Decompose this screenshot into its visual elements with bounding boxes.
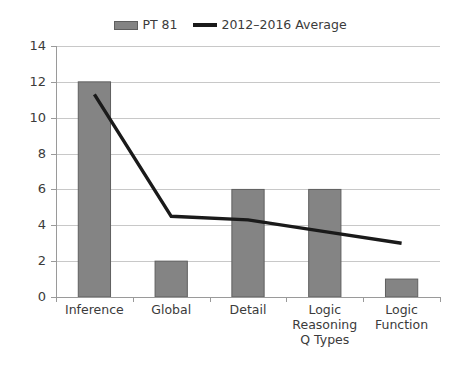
- y-tick-label: 10: [29, 110, 46, 125]
- y-tick-label: 2: [38, 253, 46, 268]
- bar: [232, 189, 264, 297]
- x-axis-label: Detail: [210, 302, 287, 368]
- y-tick-label: 14: [29, 38, 46, 53]
- line-series-average: [94, 94, 401, 243]
- bar: [385, 279, 417, 297]
- x-axis-label: Logic Function: [363, 302, 440, 368]
- y-tick-label: 12: [29, 74, 46, 89]
- x-axis-label: Global: [133, 302, 210, 368]
- chart-container: PT 81 2012–2016 Average 02468101214 Infe…: [0, 0, 461, 373]
- x-axis-category-labels: InferenceGlobalDetailLogic Reasoning Q T…: [56, 302, 440, 368]
- x-axis-label: Inference: [56, 302, 133, 368]
- y-tick-label: 8: [38, 146, 46, 161]
- bar: [309, 189, 341, 297]
- average-line: [94, 94, 401, 243]
- y-tick-label: 6: [38, 181, 46, 196]
- x-axis-label: Logic Reasoning Q Types: [286, 302, 363, 368]
- y-tick-label: 4: [38, 217, 46, 232]
- y-axis-tick-labels: 02468101214: [29, 38, 46, 304]
- y-tick-label: 0: [38, 289, 46, 304]
- bar: [155, 261, 187, 297]
